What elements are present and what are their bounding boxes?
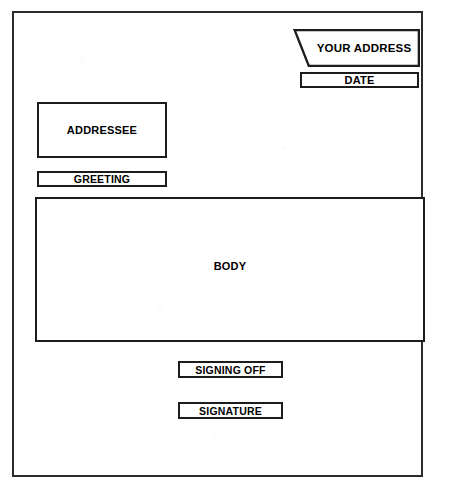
addressee-box: ADDRESSEE bbox=[37, 102, 167, 158]
date-box: DATE bbox=[300, 72, 419, 88]
signature-box: SIGNATURE bbox=[178, 402, 283, 419]
your-address-label: YOUR ADDRESS bbox=[292, 29, 420, 67]
body-box: BODY bbox=[35, 197, 425, 342]
signing-off-box: SIGNING OFF bbox=[178, 361, 283, 378]
greeting-box: GREETING bbox=[37, 171, 167, 187]
letter-layout-diagram: YOUR ADDRESS DATE ADDRESSEE GREETING BOD… bbox=[0, 0, 458, 493]
